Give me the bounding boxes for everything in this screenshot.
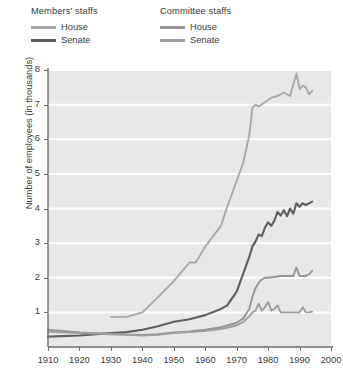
y-tickmark — [44, 105, 48, 106]
plot-area — [0, 0, 343, 378]
x-tickmark — [142, 347, 143, 351]
x-tickmark — [300, 347, 301, 351]
y-tickmark — [44, 243, 48, 244]
x-tickmark — [111, 347, 112, 351]
x-tickmark — [268, 347, 269, 351]
x-tickmark — [205, 347, 206, 351]
x-tickmark — [331, 347, 332, 351]
y-tick-label: 1 — [16, 307, 40, 316]
x-tickmark — [237, 347, 238, 351]
y-tick-label: 2 — [16, 273, 40, 282]
y-tickmark — [44, 174, 48, 175]
y-tick-label: 3 — [16, 238, 40, 247]
y-tick-label: 5 — [16, 169, 40, 178]
y-tickmark — [44, 139, 48, 140]
x-tickmark — [174, 347, 175, 351]
y-tickmark — [44, 278, 48, 279]
y-tickmark — [44, 209, 48, 210]
chart-container: Members' staffs House Senate Committee s… — [0, 0, 343, 378]
y-tickmark — [44, 312, 48, 313]
y-tick-label: 6 — [16, 134, 40, 143]
y-tickmark — [44, 70, 48, 71]
x-tick-label: 2000 — [311, 356, 343, 365]
y-tick-label: 4 — [16, 204, 40, 213]
y-tick-label: 8 — [16, 65, 40, 74]
x-tickmark — [48, 347, 49, 351]
x-tickmark — [79, 347, 80, 351]
y-tick-label: 7 — [16, 100, 40, 109]
